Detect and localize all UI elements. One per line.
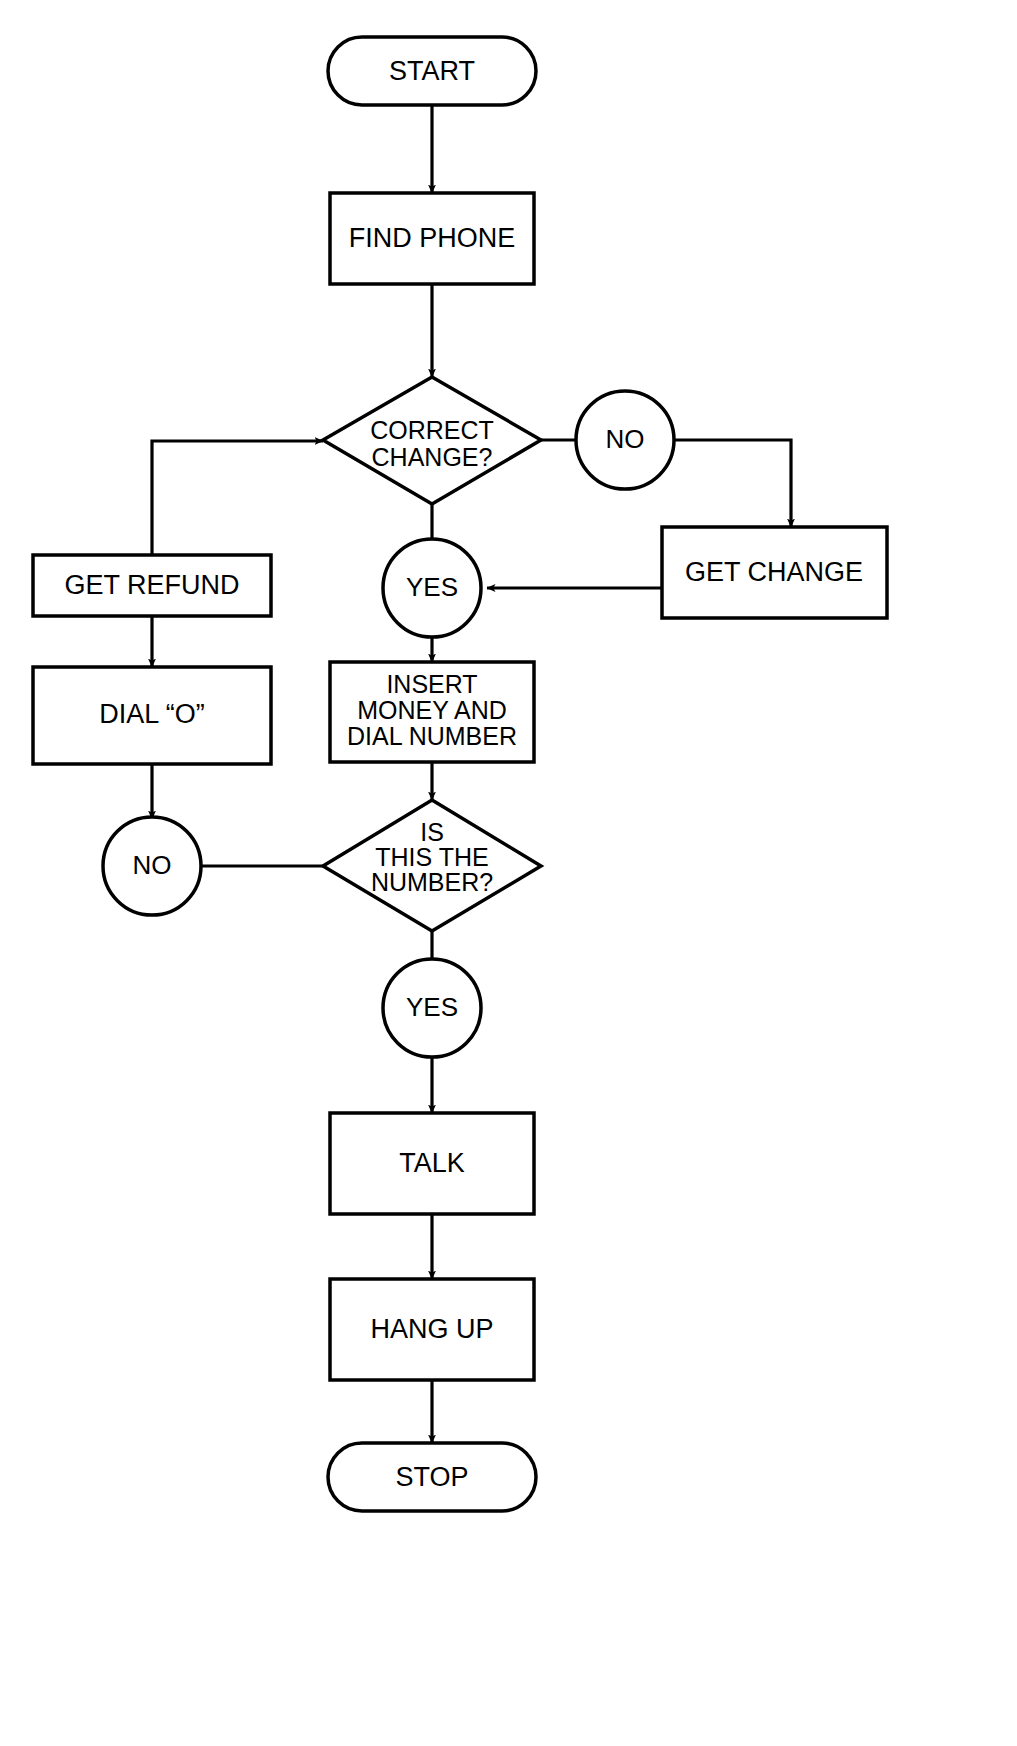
flowchart-canvas: START FIND PHONE CORRECT CHANGE? NO GET …: [0, 0, 1017, 1746]
node-start[interactable]: START: [328, 37, 536, 105]
insert-money-label-line3: DIAL NUMBER: [347, 722, 517, 750]
start-label: START: [389, 56, 475, 86]
hang-up-label: HANG UP: [370, 1314, 493, 1344]
dial-o-label: DIAL “O”: [99, 699, 205, 729]
get-refund-label: GET REFUND: [64, 570, 239, 600]
correct-change-label-line1: CORRECT: [370, 416, 494, 444]
talk-label: TALK: [399, 1148, 465, 1178]
node-get-refund[interactable]: GET REFUND: [33, 555, 271, 616]
node-hang-up[interactable]: HANG UP: [330, 1279, 534, 1380]
get-change-label: GET CHANGE: [685, 557, 863, 587]
node-get-change[interactable]: GET CHANGE: [662, 527, 887, 618]
node-stop[interactable]: STOP: [328, 1443, 536, 1511]
flowchart-diagram: START FIND PHONE CORRECT CHANGE? NO GET …: [0, 0, 1017, 1746]
no-number-label: NO: [133, 850, 172, 880]
node-yes-number[interactable]: YES: [383, 959, 481, 1057]
yes-change-label: YES: [406, 572, 458, 602]
node-talk[interactable]: TALK: [330, 1113, 534, 1214]
node-correct-change[interactable]: CORRECT CHANGE?: [323, 377, 541, 504]
node-no-change[interactable]: NO: [576, 391, 674, 489]
is-this-number-label-line1: IS: [420, 818, 444, 846]
stop-label: STOP: [395, 1462, 468, 1492]
node-find-phone[interactable]: FIND PHONE: [330, 193, 534, 284]
node-dial-o[interactable]: DIAL “O”: [33, 667, 271, 764]
node-insert-money[interactable]: INSERT MONEY AND DIAL NUMBER: [330, 662, 534, 762]
find-phone-label: FIND PHONE: [349, 223, 516, 253]
yes-number-label: YES: [406, 992, 458, 1022]
no-change-label: NO: [606, 424, 645, 454]
insert-money-label-line1: INSERT: [386, 670, 477, 698]
is-this-number-label-line2: THIS THE: [375, 843, 488, 871]
insert-money-label-line2: MONEY AND: [357, 696, 507, 724]
edge-no-to-get-change: [674, 440, 791, 527]
node-yes-change[interactable]: YES: [383, 539, 481, 637]
node-is-this-number[interactable]: IS THIS THE NUMBER?: [323, 800, 541, 931]
node-no-number[interactable]: NO: [103, 817, 201, 915]
correct-change-label-line2: CHANGE?: [372, 443, 493, 471]
edge-get-refund-to-correct-change: [152, 441, 323, 555]
is-this-number-label-line3: NUMBER?: [371, 868, 493, 896]
